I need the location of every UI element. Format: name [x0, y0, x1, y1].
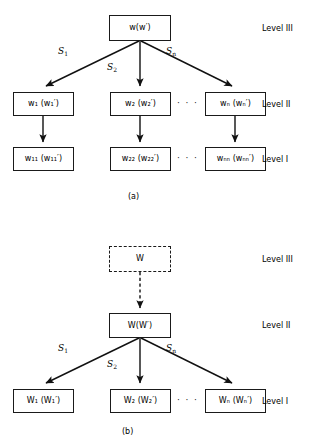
panel-b-node-leaf-2-label: W₂ (W₂′): [124, 397, 158, 405]
panel-b-node-leaf-1[interactable]: W₁ (W₁′): [13, 389, 74, 413]
panel-a-node-mid-1-label: w₁ (w₁′): [28, 100, 59, 108]
panel-a-level-3-label: Level III: [262, 24, 293, 33]
panel-a-node-leaf-1-label: w₁₁ (w₁₁′): [25, 155, 63, 163]
panel-a-ellipsis-leaf: · · ·: [177, 153, 198, 163]
panel-b-node-leaf-n[interactable]: Wₙ (Wₙ′): [205, 389, 266, 413]
panel-a-node-mid-n-label: wₙ (wₙ′): [220, 100, 251, 108]
panel-a-ellipsis-mid: · · ·: [177, 98, 198, 108]
panel-a-node-mid-n[interactable]: wₙ (wₙ′): [205, 92, 266, 116]
panel-b-caption: (b): [122, 427, 133, 436]
panel-b-node-mid[interactable]: W(W′): [109, 313, 171, 338]
panel-b-node-root-label: W: [136, 255, 144, 263]
panel-a-node-mid-1[interactable]: w₁ (w₁′): [13, 92, 74, 116]
panel-b-node-leaf-1-label: W₁ (W₁′): [27, 397, 61, 405]
panel-a-node-root-label: w(w′): [129, 24, 151, 32]
panel-b-edge-label-sn-sub: n: [172, 347, 176, 354]
panel-a-node-leaf-2[interactable]: w₂₂ (w₂₂′): [110, 147, 171, 171]
panel-a-node-mid-2-label: w₂ (w₂′): [125, 100, 156, 108]
panel-b-level-2-label: Level II: [262, 321, 290, 330]
panel-a-caption: (a): [128, 192, 139, 201]
panel-b-edge-label-s2-sub: 2: [113, 363, 117, 370]
panel-b-level-3-label: Level III: [262, 255, 293, 264]
panel-b-edge-mid-to-leafn: [141, 338, 232, 383]
panel-b-node-root[interactable]: W: [109, 246, 171, 272]
panel-a-edge-root-to-midn: [141, 41, 232, 86]
panel-a-node-leaf-n-label: wₙₙ (wₙₙ′): [217, 155, 254, 163]
panel-a-edge-label-sn: Sn: [166, 46, 176, 57]
panel-b-node-leaf-n-label: Wₙ (Wₙ′): [219, 397, 253, 405]
panel-b-edge-label-s1-sub: 1: [64, 347, 68, 354]
panel-b-node-leaf-2[interactable]: W₂ (W₂′): [110, 389, 171, 413]
figure-container: w(w′) w₁ (w₁′) w₂ (w₂′) · · · wₙ (wₙ′) w…: [0, 0, 320, 446]
panel-b-node-mid-label: W(W′): [128, 322, 152, 330]
panel-a-node-leaf-n[interactable]: wₙₙ (wₙₙ′): [205, 147, 266, 171]
panel-a-edge-label-s1: S1: [58, 46, 68, 57]
panel-b-edge-label-s2: S2: [107, 359, 117, 370]
panel-b-edge-label-sn: Sn: [166, 343, 176, 354]
panel-a-node-mid-2[interactable]: w₂ (w₂′): [110, 92, 171, 116]
panel-a-node-leaf-1[interactable]: w₁₁ (w₁₁′): [13, 147, 74, 171]
panel-a-level-1-label: Level I: [262, 155, 288, 164]
panel-b-edge-label-s1: S1: [58, 343, 68, 354]
panel-b-ellipsis-leaf: · · ·: [177, 395, 198, 405]
figure-edges: [0, 0, 320, 446]
panel-a-edge-label-s2: S2: [107, 62, 117, 73]
panel-a-edge-label-s2-sub: 2: [113, 66, 117, 73]
panel-a-edge-label-s1-sub: 1: [64, 50, 68, 57]
panel-a-level-2-label: Level II: [262, 100, 290, 109]
panel-b-level-1-label: Level I: [262, 397, 288, 406]
panel-a-node-leaf-2-label: w₂₂ (w₂₂′): [122, 155, 160, 163]
panel-a-edge-label-sn-sub: n: [172, 50, 176, 57]
panel-a-node-root[interactable]: w(w′): [109, 15, 171, 41]
